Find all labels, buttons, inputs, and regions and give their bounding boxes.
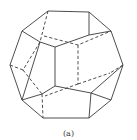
front-edges-upper	[22, 31, 111, 47]
front-edges-lower-left	[22, 86, 55, 100]
front-edge-center-lower	[55, 86, 91, 93]
outer-outline	[10, 11, 123, 118]
front-edge-right-lower	[91, 93, 111, 100]
front-edge-left-diag	[22, 42, 40, 100]
hidden-edge-6	[78, 73, 110, 84]
hidden-edge-2	[23, 42, 40, 70]
dodecahedron-figure	[0, 0, 137, 140]
hidden-edge-4	[23, 70, 42, 94]
front-edges-right	[89, 65, 123, 118]
hidden-edge-3	[10, 65, 23, 70]
figure-caption: (a)	[0, 129, 137, 138]
hidden-edge-1	[40, 11, 48, 42]
hidden-edge-8	[45, 84, 78, 96]
hidden-edge-9	[42, 94, 43, 118]
